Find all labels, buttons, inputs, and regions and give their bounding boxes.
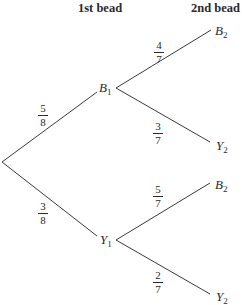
branch-b1-y2 [116, 88, 210, 142]
prob-y1-b2: 5 7 [153, 184, 163, 209]
node-b1: B1 [99, 81, 111, 97]
tree-branches [0, 0, 242, 305]
prob-root-y1: 3 8 [38, 201, 48, 226]
prob-b1-b2: 4 7 [154, 40, 164, 65]
branch-y1-b2 [116, 183, 210, 240]
branch-root-b1 [2, 92, 97, 162]
branch-root-y1 [2, 162, 97, 236]
prob-root-b1: 5 8 [38, 103, 48, 128]
prob-y1-y2: 2 7 [153, 270, 163, 295]
node-b1-y2: Y2 [216, 139, 228, 155]
node-y1-b2: B2 [215, 178, 227, 194]
branch-y1-y2 [116, 240, 210, 294]
prob-b1-y2: 3 7 [153, 121, 163, 146]
node-y1: Y1 [100, 233, 112, 249]
node-b1-b2: B2 [215, 24, 227, 40]
node-y1-y2: Y2 [216, 290, 228, 305]
